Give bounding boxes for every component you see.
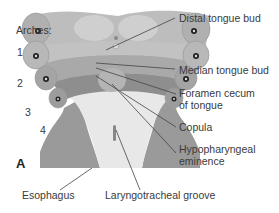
- label-foramen-cecum-line1: Foramen cecum: [179, 87, 255, 99]
- panel-letter: A: [16, 156, 25, 171]
- arch-number-2: 2: [17, 77, 23, 89]
- right-distal-tongue-bud: [118, 15, 158, 41]
- label-median-tongue-bud: Median tongue bud: [179, 64, 269, 76]
- arches-heading: Arches:: [16, 24, 52, 36]
- laryngotracheal-groove: [113, 125, 116, 141]
- arch-number-4: 4: [40, 124, 46, 136]
- arch-number-3: 3: [25, 106, 31, 118]
- label-distal-tongue-bud: Distal tongue bud: [179, 12, 261, 24]
- label-hypopharyngeal-line1: Hypopharyngeal: [179, 143, 255, 155]
- label-hypopharyngeal-line2: eminence: [179, 155, 225, 167]
- left-distal-tongue-bud: [74, 15, 114, 41]
- label-foramen-cecum-line2: of tongue: [179, 99, 223, 111]
- median-tongue-bud: [114, 36, 118, 40]
- label-esophagus: Esophagus: [22, 189, 75, 201]
- label-laryngotracheal-groove: Laryngotracheal groove: [105, 189, 215, 201]
- label-copula: Copula: [179, 121, 212, 133]
- arch-number-1: 1: [17, 46, 23, 58]
